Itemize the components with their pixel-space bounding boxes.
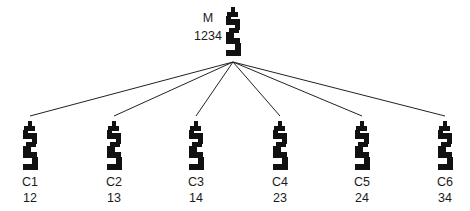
segment-glyph-icon (226, 7, 241, 56)
child-label: C6 (437, 175, 453, 189)
child-value: 23 (273, 191, 287, 205)
segment-glyph-icon (273, 121, 288, 170)
child-label: C1 (22, 175, 38, 189)
child-value: 24 (355, 191, 369, 205)
root-label: M (203, 11, 213, 25)
root-value: 1234 (194, 29, 222, 43)
child-node-c5: C524 (354, 121, 370, 205)
edge-root-to-c6 (233, 62, 445, 116)
child-value: 34 (438, 191, 452, 205)
child-node-c2: C213 (106, 121, 122, 205)
segment-glyph-icon (189, 121, 204, 170)
edge-root-to-c4 (233, 62, 280, 116)
child-value: 12 (23, 191, 37, 205)
segment-glyph-icon (355, 121, 370, 170)
edge-root-to-c5 (233, 62, 362, 116)
segment-glyph-icon (438, 121, 453, 170)
child-node-c1: C112 (22, 121, 38, 205)
child-label: C4 (272, 175, 288, 189)
child-node-c3: C314 (188, 121, 204, 205)
child-node-c6: C634 (437, 121, 453, 205)
child-nodes: C112C213C314C423C524C634 (22, 121, 453, 205)
child-label: C5 (354, 175, 370, 189)
edges (30, 62, 445, 116)
child-label: C2 (106, 175, 122, 189)
segment-glyph-icon (23, 121, 38, 170)
segment-glyph-icon (107, 121, 122, 170)
child-value: 13 (107, 191, 121, 205)
root-node: M 1234 (194, 7, 241, 56)
child-value: 14 (189, 191, 203, 205)
child-label: C3 (188, 175, 204, 189)
tree-diagram: M 1234 C112C213C314C423C524C634 (0, 0, 470, 211)
child-node-c4: C423 (272, 121, 288, 205)
